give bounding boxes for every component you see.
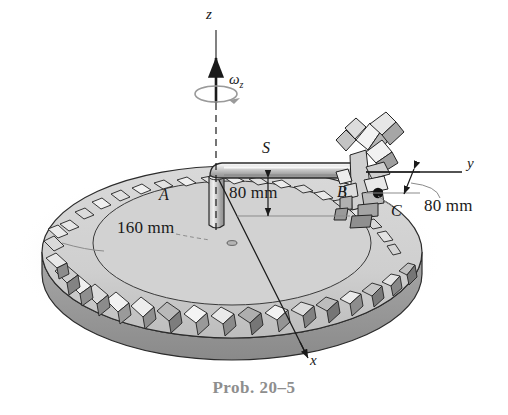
shaft-horizontal-S <box>210 163 358 178</box>
omega-symbol: ω <box>229 71 240 87</box>
figure-caption: Prob. 20–5 <box>0 378 508 398</box>
axis-label-y: y <box>467 155 474 172</box>
dimension-label-gear-offset: 80 mm <box>424 196 473 216</box>
ring-gear-hub-bore <box>227 241 237 246</box>
axis-label-z: z <box>206 6 212 23</box>
dimension-label-ring-radius: 160 mm <box>117 218 174 238</box>
point-label-A: A <box>159 186 169 204</box>
shaft-label-S: S <box>262 139 270 157</box>
dimension-label-shaft-height: 80 mm <box>229 183 278 203</box>
angular-velocity-label: ωz <box>229 71 244 90</box>
figure-canvas: z y x ωz A B C S 160 mm 80 mm 80 mm Prob… <box>0 0 508 415</box>
omega-subscript: z <box>240 79 244 90</box>
axis-label-x: x <box>310 352 317 369</box>
point-label-B: B <box>337 183 347 201</box>
point-label-C: C <box>391 202 402 220</box>
